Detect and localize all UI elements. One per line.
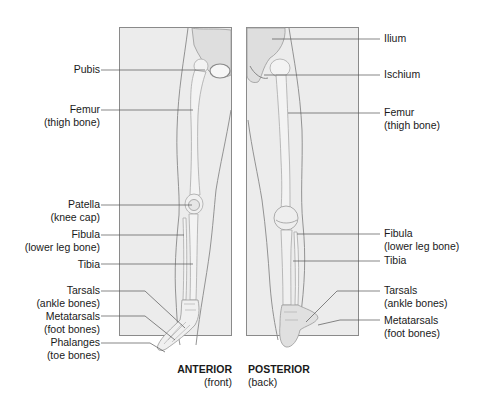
posterior-view-title: POSTERIOR (back) (248, 363, 310, 389)
label-text: Femur (384, 106, 414, 118)
anterior-view-title: ANTERIOR (front) (177, 363, 232, 389)
label-subtext: (toe bones) (47, 349, 100, 361)
view-title-text: ANTERIOR (177, 363, 232, 376)
label-subtext: (thigh bone) (384, 119, 440, 131)
label-text: Tarsals (67, 284, 100, 296)
label-text: Phalanges (50, 336, 100, 348)
label-phalanges: Phalanges (toe bones) (47, 336, 100, 362)
label-subtext: (foot bones) (384, 327, 440, 339)
label-subtext: (foot bones) (44, 323, 100, 335)
label-ilium: Ilium (384, 32, 406, 45)
posterior-panel (247, 28, 381, 348)
label-subtext: (knee cap) (50, 211, 100, 223)
label-text: Femur (70, 103, 100, 115)
label-text: Metatarsals (384, 314, 438, 326)
label-text: Ilium (384, 32, 406, 44)
label-femur-posterior: Femur (thigh bone) (384, 106, 440, 132)
label-tarsals-anterior: Tarsals (ankle bones) (36, 284, 100, 310)
label-text: Tarsals (384, 284, 417, 296)
label-metatarsals-posterior: Metatarsals (foot bones) (384, 314, 440, 340)
label-metatarsals-anterior: Metatarsals (foot bones) (44, 310, 100, 336)
view-subtitle-text: (back) (248, 376, 310, 389)
label-subtext: (thigh bone) (44, 116, 100, 128)
label-text: Patella (68, 198, 100, 210)
label-pubis: Pubis (74, 63, 100, 76)
label-subtext: (ankle bones) (384, 297, 448, 309)
view-subtitle-text: (front) (177, 376, 232, 389)
label-subtext: (lower leg bone) (384, 240, 459, 252)
label-text: Ischium (384, 68, 420, 80)
label-subtext: (ankle bones) (36, 297, 100, 309)
label-fibula-posterior: Fibula (lower leg bone) (384, 227, 459, 253)
leg-bones-diagram: Pubis Femur (thigh bone) Patella (knee c… (0, 0, 479, 403)
label-patella: Patella (knee cap) (50, 198, 100, 224)
label-text: Tibia (384, 254, 406, 266)
label-text: Metatarsals (46, 310, 100, 322)
label-text: Fibula (384, 227, 413, 239)
label-text: Pubis (74, 63, 100, 75)
label-tarsals-posterior: Tarsals (ankle bones) (384, 284, 448, 310)
label-subtext: (lower leg bone) (25, 241, 100, 253)
label-text: Tibia (78, 258, 100, 270)
label-fibula-anterior: Fibula (lower leg bone) (25, 228, 100, 254)
label-text: Fibula (71, 228, 100, 240)
label-ischium: Ischium (384, 68, 420, 81)
label-femur-anterior: Femur (thigh bone) (44, 103, 100, 129)
view-title-text: POSTERIOR (248, 363, 310, 376)
label-tibia-anterior: Tibia (78, 258, 100, 271)
label-tibia-posterior: Tibia (384, 254, 406, 267)
anterior-panel (101, 28, 232, 353)
